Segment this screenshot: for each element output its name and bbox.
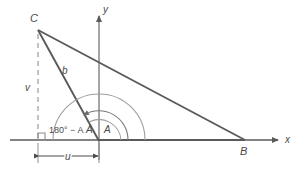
exterior-angle-label: 180° − A [49,125,83,135]
right-angle-square-icon [38,133,45,140]
diagram-canvas: x y v b 180° − A A C [0,0,296,171]
vertex-label-B: B [240,145,247,157]
vertex-label-C: C [30,12,38,24]
axes-group: x y [10,4,291,160]
geometry-diagram: x y v b 180° − A A C [0,0,296,171]
x-axis-label: x [284,134,291,145]
dimension-u-group: u [38,143,99,163]
interior-angle-label-A: A [103,124,111,135]
dimension-label-u: u [65,151,71,162]
height-dashed-group: v [25,34,45,140]
side-label-b: b [62,65,68,76]
height-label-v: v [25,82,31,93]
angle-arcs-group: 180° − A A [49,94,145,140]
y-axis-label: y [102,4,109,15]
vertex-label-A: A [85,124,93,135]
